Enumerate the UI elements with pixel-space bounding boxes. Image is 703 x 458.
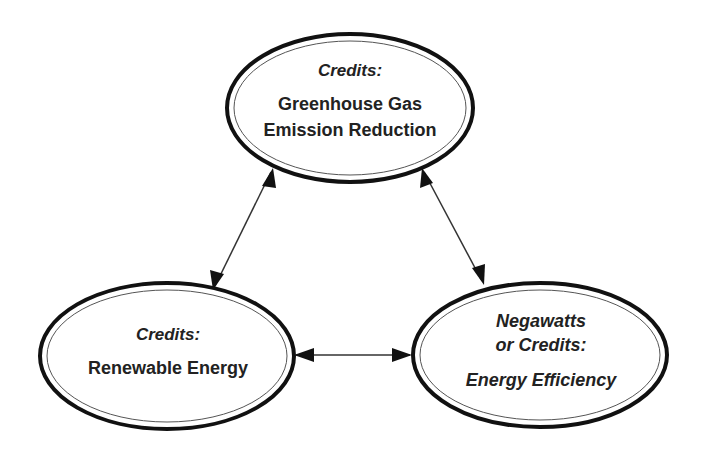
node-efficiency-line-1: or Credits:: [495, 335, 586, 355]
node-efficiency: Negawatts or Credits: Energy Efficiency: [413, 283, 667, 427]
node-ghg: Credits: Greenhouse Gas Emission Reducti…: [227, 34, 473, 182]
edge-ghg-efficiency: [424, 172, 482, 281]
node-renewable-outer-border: [40, 283, 294, 429]
node-ghg-line-0: Credits:: [318, 61, 382, 80]
node-ghg-line-1: Greenhouse Gas: [278, 94, 422, 114]
arrowhead-ghg-top-left: [262, 168, 276, 188]
node-renewable: Credits: Renewable Energy: [40, 283, 294, 429]
node-renewable-line-1: Renewable Energy: [88, 358, 248, 378]
node-efficiency-outer-border: [413, 283, 667, 427]
edge-ghg-renewable: [215, 172, 271, 286]
node-renewable-line-0: Credits:: [136, 325, 200, 344]
node-efficiency-line-0: Negawatts: [496, 311, 586, 331]
node-ghg-line-2: Emission Reduction: [263, 120, 436, 140]
diagram-canvas: Credits: Greenhouse Gas Emission Reducti…: [0, 0, 703, 458]
arrowhead-renewable-right: [294, 348, 314, 362]
node-efficiency-line-2: Energy Efficiency: [466, 370, 618, 390]
arrowhead-efficiency-left: [392, 348, 412, 362]
